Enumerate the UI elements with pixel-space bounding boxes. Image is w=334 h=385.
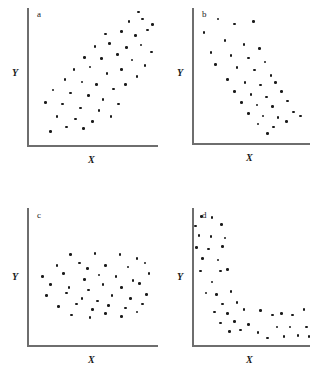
data-point [134,34,137,37]
data-point [257,331,260,334]
data-point [106,72,109,75]
panel-b-letter: b [202,10,207,19]
data-point [233,23,236,26]
data-point [210,51,213,54]
data-point [289,326,292,329]
data-point [253,69,256,72]
data-point [87,289,90,292]
data-point [256,104,259,107]
data-point [102,98,105,101]
data-point [89,66,92,69]
data-point [220,223,223,226]
data-point [83,56,86,59]
panel-a-y-label: Y [12,68,18,78]
data-point [131,59,134,62]
data-point [277,116,280,119]
data-point [78,262,81,265]
data-point [239,329,242,332]
data-point [65,292,68,295]
data-point [221,245,224,248]
data-point [224,39,227,42]
data-point [144,64,147,67]
data-point [217,259,220,262]
data-point [264,61,267,64]
data-point [276,326,279,329]
data-point [205,292,208,295]
panel-b-y-axis [192,8,194,145]
data-point [104,312,107,315]
data-point [107,304,110,307]
data-point [150,51,153,54]
data-point [110,115,113,118]
data-point [280,90,283,93]
data-point [145,293,148,296]
data-point [285,120,288,123]
data-point [127,266,130,269]
data-point [272,126,275,129]
panel-c-y-label: Y [12,272,18,282]
data-point [49,130,52,133]
data-point [73,68,76,71]
data-point [81,297,84,300]
data-point [45,294,48,297]
data-point [98,109,101,112]
panel-c-y-axis [27,208,29,347]
data-point [62,272,65,275]
panel-d-x-label: X [246,355,253,365]
data-point [98,274,101,277]
panel-b-x-label: X [246,153,253,163]
data-point [140,44,143,47]
data-point [219,322,222,325]
data-point [244,81,247,84]
data-point [201,257,204,260]
data-point [136,257,139,260]
data-point [108,42,111,45]
data-point [104,33,107,36]
panel-a-x-label: X [88,155,95,165]
panel-d-y-axis [192,208,194,347]
data-point [79,107,82,110]
data-point [120,315,123,318]
data-point [226,268,229,271]
data-point [69,253,72,256]
data-point [259,84,262,87]
data-point [219,270,222,273]
data-point [247,57,250,60]
data-point [233,90,236,93]
data-point [144,262,147,265]
data-point [70,314,73,317]
data-point [228,330,231,333]
data-point [74,118,77,121]
data-point [305,326,308,329]
data-point [214,63,217,66]
panel-d-x-axis [192,345,310,347]
data-point [303,308,306,311]
data-point [100,57,103,60]
data-point [124,307,127,310]
data-point [61,103,64,106]
data-point [82,127,85,130]
data-point [198,234,201,237]
data-point [95,83,98,86]
data-point [132,279,135,282]
data-point [259,309,262,312]
data-point [262,115,265,118]
data-point [94,45,97,48]
data-point [148,272,151,275]
data-point [292,111,295,114]
data-point [56,264,59,267]
data-point [75,303,78,306]
scatterplot-figure: a Y X b Y X c Y X d Y X [0,0,334,385]
data-point [274,81,277,84]
data-point [111,294,114,297]
data-point [136,311,139,314]
data-point [116,53,119,56]
data-point [91,120,94,123]
data-point [258,47,261,50]
data-point [266,337,269,340]
data-point [89,316,92,319]
data-point [151,23,154,26]
data-point [120,286,123,289]
data-point [286,100,289,103]
data-point [236,301,239,304]
